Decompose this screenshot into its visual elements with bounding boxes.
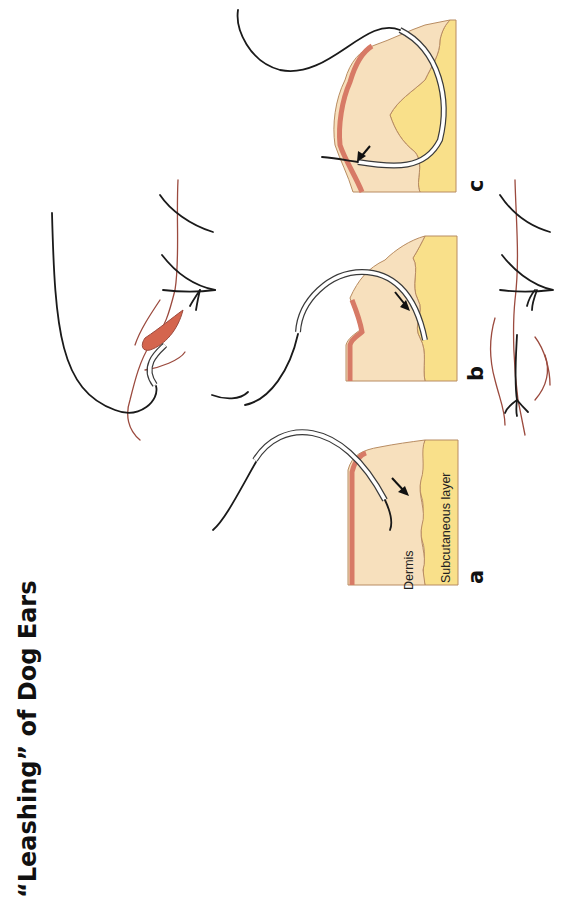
- svg-text:“Leashing” of Dog Ears: “Leashing” of Dog Ears: [14, 581, 42, 898]
- panel-letter-a: a: [464, 570, 488, 584]
- panel-a: Dermis Subcutaneous layer a: [212, 392, 488, 590]
- panel-c: c: [238, 10, 488, 192]
- figure-title: “Leashing” of Dog Ears: [14, 581, 42, 898]
- panel-letter-b: b: [464, 366, 488, 381]
- dermis-label: Dermis: [402, 550, 416, 590]
- leashing-diagram: “Leashing” of Dog Ears Dermis Subcutaneo…: [0, 0, 578, 901]
- dog-ear-schematic: [52, 180, 215, 440]
- subcutaneous-layer-label: Subcutaneous layer: [439, 473, 453, 584]
- panel-letter-c: c: [464, 180, 488, 192]
- panel-b: b: [245, 236, 488, 405]
- closed-wound-schematic: [490, 180, 553, 435]
